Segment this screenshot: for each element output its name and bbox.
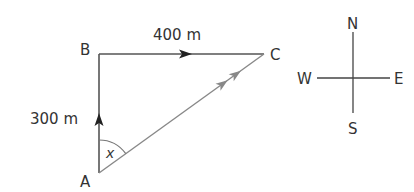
point-label-a: A xyxy=(80,173,91,191)
compass: N S W E xyxy=(297,15,403,138)
compass-north-label: N xyxy=(347,15,358,33)
arrowhead-ac xyxy=(215,80,227,91)
angle-label-x: x xyxy=(105,145,115,161)
arrowhead-ac xyxy=(229,71,241,82)
length-label-ab: 300 m xyxy=(30,110,78,128)
point-label-b: B xyxy=(80,41,90,59)
length-label-bc: 400 m xyxy=(153,26,201,44)
compass-south-label: S xyxy=(348,120,358,138)
point-label-c: C xyxy=(270,46,280,64)
compass-east-label: E xyxy=(394,70,403,88)
compass-west-label: W xyxy=(297,70,312,88)
vector-diagram: x B C A 400 m 300 m N S W E xyxy=(0,0,414,192)
